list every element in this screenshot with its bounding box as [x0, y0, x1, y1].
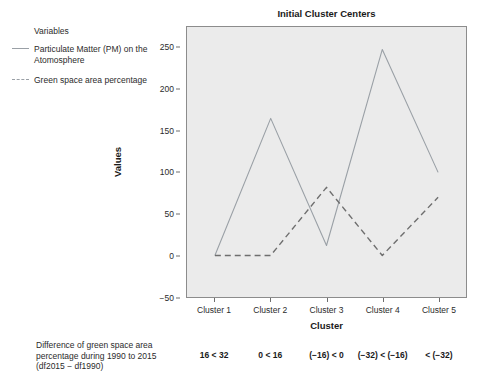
- y-tick-mark: [176, 214, 180, 215]
- chart-title: Initial Cluster Centers: [186, 8, 467, 19]
- x-tick-mark: [383, 298, 384, 302]
- y-tick-mark: [176, 130, 180, 131]
- x-tick-mark: [439, 298, 440, 302]
- plot-panel: [186, 26, 467, 298]
- x-tick-mark: [214, 298, 215, 302]
- y-tick-label: −50: [160, 294, 174, 303]
- footnote-value: 16 < 32: [200, 350, 229, 360]
- x-tick-label: Cluster 3: [309, 305, 343, 315]
- solid-line-key-icon: [12, 48, 29, 50]
- series-line-pm: [215, 49, 438, 255]
- y-tick-mark: [176, 256, 180, 257]
- x-tick-mark: [327, 298, 328, 302]
- footnote-value: (−16) < 0: [309, 350, 344, 360]
- y-tick-mark: [176, 46, 180, 47]
- footnote-value: (−32) < (−16): [358, 350, 408, 360]
- x-axis: Cluster 1Cluster 2Cluster 3Cluster 4Clus…: [186, 298, 467, 320]
- y-axis: −50050100150200250: [150, 26, 180, 298]
- y-tick-label: 200: [160, 85, 174, 94]
- y-tick-label: 50: [165, 210, 174, 219]
- y-tick-label: 100: [160, 168, 174, 177]
- footnote-row: Difference of green space area percentag…: [0, 340, 480, 380]
- legend-label-green-space: Green space area percentage: [34, 75, 162, 86]
- x-tick-label: Cluster 4: [366, 305, 400, 315]
- y-tick-label: 250: [160, 43, 174, 52]
- legend-title: Variables: [34, 26, 162, 37]
- footnote-description: Difference of green space area percentag…: [36, 340, 186, 372]
- x-axis-label: Cluster: [186, 320, 467, 331]
- legend-label-pm: Particulate Matter (PM) on the Atomosphe…: [34, 44, 162, 66]
- footnote-value: 0 < 16: [258, 350, 282, 360]
- dashed-line-key-icon: [12, 79, 29, 81]
- chart-legend: Variables Particulate Matter (PM) on the…: [12, 26, 162, 106]
- y-tick-label: 150: [160, 126, 174, 135]
- x-tick-label: Cluster 5: [422, 305, 456, 315]
- y-axis-label: Values: [112, 26, 126, 298]
- legend-entry-green-space: Green space area percentage: [12, 75, 162, 97]
- y-tick-mark: [176, 172, 180, 173]
- plot-lines: [187, 27, 466, 297]
- footnote-value: < (−32): [425, 350, 452, 360]
- y-tick-mark: [176, 298, 180, 299]
- legend-entry-pm: Particulate Matter (PM) on the Atomosphe…: [12, 44, 162, 66]
- x-tick-mark: [270, 298, 271, 302]
- y-tick-mark: [176, 88, 180, 89]
- x-tick-label: Cluster 2: [253, 305, 287, 315]
- y-tick-label: 0: [169, 252, 174, 261]
- chart-figure: Variables Particulate Matter (PM) on the…: [0, 0, 480, 389]
- x-tick-label: Cluster 1: [197, 305, 231, 315]
